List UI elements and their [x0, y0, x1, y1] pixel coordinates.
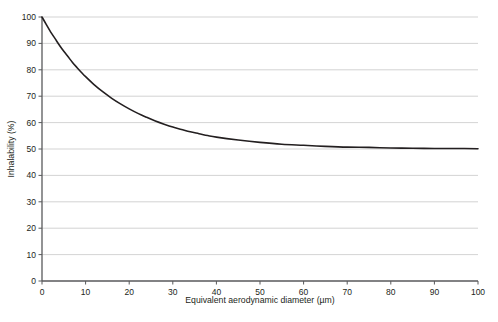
x-axis-tick-label: 70 [342, 287, 352, 297]
chart-background [0, 0, 498, 322]
y-axis-tick-label: 10 [27, 250, 37, 260]
y-axis-tick-label: 50 [27, 144, 37, 154]
x-axis-title: Equivalent aerodynamic diameter (µm) [185, 295, 334, 305]
x-axis-tick-label: 80 [386, 287, 396, 297]
y-axis-tick-label: 60 [27, 118, 37, 128]
chart-container: 0102030405060708090100 01020304050607080… [0, 0, 498, 322]
y-axis-tick-label: 70 [27, 91, 37, 101]
inhalability-curve-chart: 0102030405060708090100 01020304050607080… [0, 0, 498, 322]
x-axis-tick-label: 30 [168, 287, 178, 297]
x-axis-tick-label: 20 [124, 287, 134, 297]
y-axis-tick-label: 90 [27, 38, 37, 48]
y-axis-tick-label: 100 [22, 12, 36, 22]
y-axis-tick-label: 80 [27, 65, 37, 75]
x-axis-tick-label: 90 [430, 287, 440, 297]
y-axis-title: Inhalability (%) [6, 120, 16, 177]
y-axis-tick-label: 30 [27, 197, 37, 207]
x-axis-tick-label: 0 [40, 287, 45, 297]
x-axis-tick-label: 10 [81, 287, 91, 297]
x-axis-tick-label: 100 [471, 287, 485, 297]
y-axis-tick-label: 0 [31, 276, 36, 286]
y-axis-tick-label: 20 [27, 223, 37, 233]
y-axis-tick-label: 40 [27, 170, 37, 180]
